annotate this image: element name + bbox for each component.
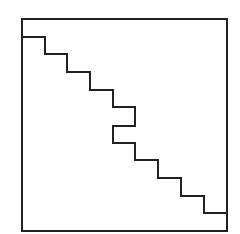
- staircase-diagram: [0, 0, 240, 234]
- diagram-canvas: [0, 0, 240, 234]
- staircase-path: [22, 37, 227, 213]
